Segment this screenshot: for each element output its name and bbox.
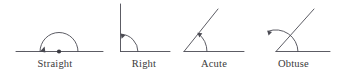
figure-label-acute: Acute bbox=[176, 57, 252, 70]
figure-right-angle: Right bbox=[108, 0, 180, 77]
figure-label-obtuse: Obtuse bbox=[250, 57, 337, 70]
vertex-dot bbox=[57, 49, 61, 53]
acute-angle-drawing bbox=[176, 0, 252, 57]
right-angle-drawing bbox=[108, 0, 180, 57]
figure-acute-angle: Acute bbox=[176, 0, 252, 77]
arc-obtuse bbox=[268, 30, 298, 52]
obtuse-angle-drawing bbox=[250, 0, 337, 57]
figure-label-straight: Straight bbox=[0, 57, 110, 70]
arc-semicircle bbox=[40, 33, 78, 52]
figure-label-right: Right bbox=[108, 57, 180, 70]
figure-straight-angle: Straight bbox=[0, 0, 110, 77]
ray-diagonal-line bbox=[184, 9, 218, 52]
angle-types-diagram: Straight Right Acute bbox=[0, 0, 337, 77]
figure-obtuse-angle: Obtuse bbox=[250, 0, 337, 77]
straight-angle-drawing bbox=[0, 0, 110, 57]
arrowhead-icon bbox=[267, 31, 272, 36]
arc-quarter bbox=[122, 34, 138, 51]
